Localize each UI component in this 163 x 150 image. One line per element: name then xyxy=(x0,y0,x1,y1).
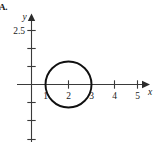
x-tick-label-1: 1 xyxy=(43,91,48,101)
y-axis-max-label: 2.5 xyxy=(13,26,25,36)
x-tick-label-2: 2 xyxy=(66,91,71,101)
figure-panel: A. 1 2 3 4 5 2.5 x y xyxy=(0,0,163,150)
x-tick-label-5: 5 xyxy=(135,91,140,101)
x-axis-label: x xyxy=(147,87,153,97)
y-axis-label: y xyxy=(21,12,27,22)
x-tick-label-4: 4 xyxy=(112,91,117,101)
coordinate-plane-figure: 1 2 3 4 5 2.5 x y xyxy=(0,0,163,150)
y-axis-arrow-icon xyxy=(28,14,35,22)
x-tick-label-3: 3 xyxy=(89,91,94,101)
